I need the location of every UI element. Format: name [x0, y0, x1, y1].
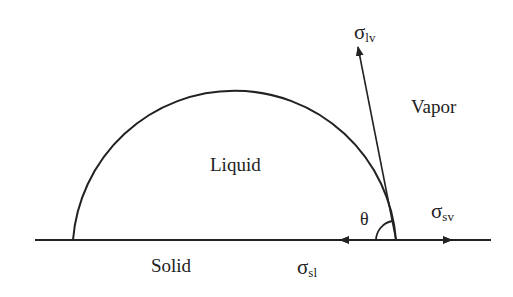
liquid-label: Liquid	[210, 155, 261, 174]
sigma-sv-label: σsv	[431, 201, 454, 223]
theta-label: θ	[360, 210, 369, 228]
vapor-label: Vapor	[411, 97, 456, 116]
solid-label: Solid	[151, 256, 191, 275]
contact-angle-arc	[376, 221, 392, 240]
contact-angle-diagram	[0, 0, 513, 297]
sigma-lv-label: σlv	[354, 22, 375, 44]
sigma-sl-label: σsl	[297, 257, 317, 279]
